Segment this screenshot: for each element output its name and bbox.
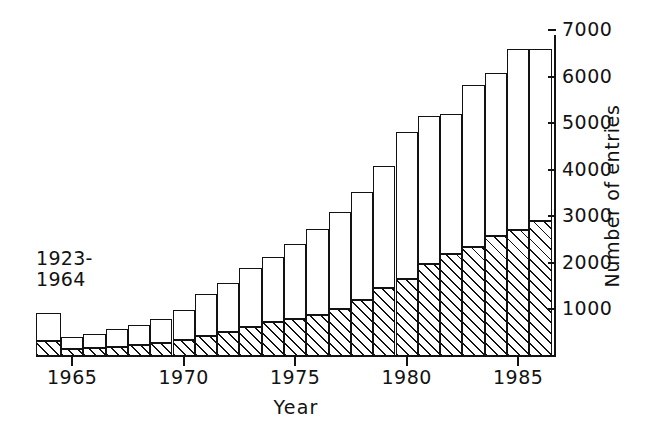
- bar-segment-white: [284, 244, 306, 319]
- bar-segment-white: [507, 49, 529, 231]
- y-tick-label: 1000: [562, 299, 612, 318]
- bar-segment-white: [195, 294, 217, 336]
- bar-segment-hatched: [351, 300, 373, 356]
- bar-1978: [351, 192, 373, 356]
- bar-1977: [329, 212, 351, 356]
- bar-segment-hatched: [418, 264, 440, 356]
- x-tick-label: 1980: [381, 368, 431, 387]
- bar-segment-hatched: [262, 322, 284, 356]
- bar-segment-white: [329, 212, 351, 310]
- bar-1970: [173, 310, 195, 356]
- x-tick-label: 1985: [493, 368, 543, 387]
- bar-segment-white: [306, 229, 328, 315]
- bar-segment-white: [83, 334, 105, 348]
- y-tick-4000: [548, 169, 556, 171]
- bar-segment-hatched: [462, 247, 484, 356]
- x-tick-label: 1970: [158, 368, 208, 387]
- bar-segment-hatched: [306, 315, 328, 356]
- bar-segment-white: [373, 166, 395, 288]
- x-tick-1980: [406, 357, 408, 366]
- bar-segment-hatched: [440, 254, 462, 356]
- bar-segment-white: [529, 49, 551, 221]
- x-tick-1985: [517, 357, 519, 366]
- bar-segment-hatched: [195, 336, 217, 356]
- y-tick-5000: [548, 122, 556, 124]
- bar-segment-hatched: [36, 341, 61, 356]
- x-tick-1970: [183, 357, 185, 366]
- bar-1968: [128, 325, 150, 356]
- bar-segment-white: [462, 85, 484, 247]
- x-tick-label: 1975: [270, 368, 320, 387]
- plot-area: [36, 30, 540, 356]
- bar-segment-white: [61, 337, 83, 349]
- y-tick-label: 6000: [562, 67, 612, 86]
- y-tick-2000: [548, 262, 556, 264]
- y-tick-3000: [548, 215, 556, 217]
- bar-1981: [418, 116, 440, 356]
- bar-1973: [239, 268, 261, 356]
- bar-1982: [440, 114, 462, 356]
- bar-segment-hatched: [329, 309, 351, 356]
- bar-segment-white: [128, 325, 150, 345]
- y-axis-title: Number of entries: [601, 105, 623, 288]
- y-tick-6000: [548, 76, 556, 78]
- x-tick-label: 1965: [47, 368, 97, 387]
- bar-segment-white: [351, 192, 373, 300]
- bar-1983: [462, 85, 484, 356]
- bar-segment-hatched: [173, 340, 195, 356]
- bar-segment-white: [396, 132, 418, 279]
- bar-1976: [306, 229, 328, 356]
- bar-1985: [507, 49, 529, 356]
- bar-1979: [373, 166, 395, 356]
- bar-1923-1964: [36, 313, 61, 356]
- bar-segment-hatched: [529, 221, 551, 356]
- bar-1974: [262, 257, 284, 356]
- x-axis-title: Year: [273, 396, 318, 418]
- y-tick-label: 7000: [562, 20, 612, 39]
- x-tick-1965: [71, 357, 73, 366]
- first-bar-annotation: 1923- 1964: [36, 248, 93, 289]
- bar-1980: [396, 132, 418, 356]
- bar-segment-hatched: [284, 319, 306, 356]
- bar-segment-hatched: [239, 327, 261, 356]
- bar-1971: [195, 294, 217, 356]
- bar-segment-white: [217, 283, 239, 332]
- bar-segment-hatched: [485, 236, 507, 356]
- bar-segment-white: [36, 313, 61, 341]
- y-tick-1000: [548, 308, 556, 310]
- bar-segment-white: [418, 116, 440, 264]
- chart-figure: 1000200030004000500060007000 19651970197…: [0, 0, 655, 442]
- bar-1984: [485, 73, 507, 356]
- bar-segment-hatched: [217, 332, 239, 356]
- y-tick-7000: [548, 29, 556, 31]
- bar-segment-white: [239, 268, 261, 328]
- bar-1969: [150, 319, 172, 356]
- bar-segment-hatched: [373, 288, 395, 356]
- bar-segment-white: [173, 310, 195, 339]
- bar-segment-hatched: [396, 279, 418, 356]
- bar-1965: [61, 337, 83, 356]
- x-tick-1975: [294, 357, 296, 366]
- bar-1972: [217, 283, 239, 356]
- bar-segment-white: [106, 329, 128, 347]
- bar-1967: [106, 329, 128, 356]
- bar-1975: [284, 244, 306, 356]
- bar-segment-white: [440, 114, 462, 255]
- bar-segment-white: [262, 257, 284, 322]
- bar-1966: [83, 334, 105, 356]
- bar-segment-white: [485, 73, 507, 236]
- bar-segment-hatched: [507, 230, 529, 356]
- bar-segment-white: [150, 319, 172, 343]
